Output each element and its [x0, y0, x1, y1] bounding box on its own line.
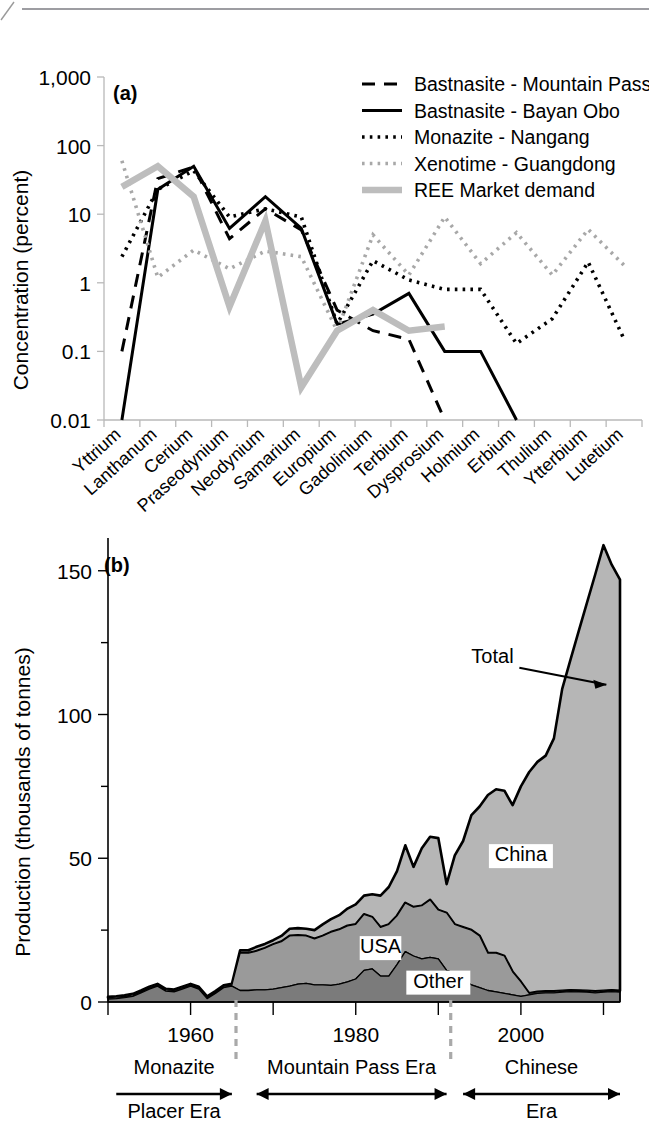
era-arrowhead-left-2 — [463, 1088, 475, 1100]
era-arrowhead-right-1 — [435, 1088, 447, 1100]
y-tick-label-a: 1 — [79, 272, 91, 295]
area-label-other: Other — [413, 970, 463, 992]
legend-label-1: Bastnasite - Bayan Obo — [414, 100, 620, 122]
x-axis-category-labels-a: YttriumLanthanumCeriumPraseodyniumNeodyn… — [69, 424, 627, 516]
y-tick-label-a: 0.1 — [62, 340, 91, 363]
y-axis-title-b-text: Production (thousands of tonnes) — [11, 647, 34, 956]
x-axis-tick-labels-b: 196019802000 — [167, 1023, 544, 1046]
y-tick-label-b: 50 — [69, 847, 92, 870]
y-tick-label-b: 0 — [80, 991, 92, 1014]
panel-label-b: (b) — [104, 554, 130, 576]
area-label-total: Total — [471, 645, 513, 667]
figure-container: Concentration (percent) 0.010.11101001,0… — [0, 0, 649, 1142]
y-axis-tick-labels-a: 0.010.11101001,000 — [38, 66, 91, 432]
y-axis-title-a: Concentration (percent) — [9, 170, 32, 391]
y-axis-tick-labels-b: 050100150 — [57, 560, 92, 1014]
era-label-top-1: Mountain Pass Era — [267, 1056, 437, 1078]
panel-b-production-chart: Production (thousands of tonnes) 0501001… — [0, 512, 649, 1142]
y-axis-title-b: Production (thousands of tonnes) — [11, 647, 34, 956]
panel-a-concentration-chart: Concentration (percent) 0.010.11101001,0… — [0, 22, 649, 502]
y-tick-label-a: 0.01 — [50, 409, 91, 432]
y-tick-label-a: 1,000 — [38, 66, 91, 89]
y-tick-label-a: 100 — [56, 135, 91, 158]
x-tick-label-b: 1980 — [332, 1023, 379, 1046]
stacked-areas-b — [108, 545, 620, 1002]
legend-label-0: Bastnasite - Mountain Pass — [414, 73, 649, 95]
y-tick-label-b: 150 — [57, 560, 92, 583]
x-tick-label-b: 1960 — [167, 1023, 214, 1046]
y-tick-label-b: 100 — [57, 704, 92, 727]
y-axis-title-a-text: Concentration (percent) — [9, 170, 32, 391]
era-arrowhead-right-0 — [220, 1088, 232, 1100]
series-line-1 — [122, 166, 517, 420]
era-label-bottom-0: Placer Era — [127, 1100, 221, 1122]
series-line-4 — [122, 166, 445, 387]
legend-label-2: Monazite - Nangang — [414, 126, 590, 148]
era-arrowhead-right-2 — [608, 1088, 620, 1100]
era-label-top-2: Chinese — [505, 1056, 578, 1078]
era-label-bottom-2: Era — [526, 1100, 558, 1122]
area-label-china: China — [495, 843, 548, 865]
y-tick-label-a: 10 — [68, 203, 91, 226]
concentration-log-line-chart: Concentration (percent) 0.010.11101001,0… — [0, 22, 649, 502]
era-label-top-0: Monazite — [133, 1056, 214, 1078]
era-annotations-b: MonazitePlacer EraMountain Pass EraChine… — [116, 1056, 620, 1122]
page-corner-artifact — [0, 0, 18, 22]
area-label-usa: USA — [360, 935, 402, 957]
panel-label-a: (a) — [113, 82, 137, 104]
era-arrowhead-left-1 — [257, 1088, 269, 1100]
legend-label-3: Xenotime - Guangdong — [414, 153, 616, 175]
production-stacked-area-chart: Production (thousands of tonnes) 0501001… — [0, 512, 649, 1142]
x-tick-label-b: 2000 — [498, 1023, 545, 1046]
legend-a: Bastnasite - Mountain PassBastnasite - B… — [362, 73, 649, 201]
legend-label-4: REE Market demand — [414, 179, 595, 201]
page-scan-artifact-line — [22, 8, 649, 10]
